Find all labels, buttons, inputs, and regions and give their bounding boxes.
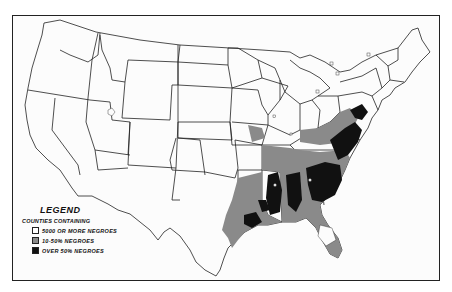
legend-title: LEGEND — [40, 205, 117, 215]
legend-item-label: 10-50% NEGROES — [42, 238, 94, 244]
legend-item-over-50-percent: OVER 50% NEGROES — [32, 247, 117, 254]
legend-item-10-50-percent: 10-50% NEGROES — [32, 237, 117, 244]
legend-subtitle: COUNTIES CONTAINING — [22, 218, 117, 224]
legend: LEGEND COUNTIES CONTAINING 5000 OR MORE … — [22, 205, 117, 254]
gray-swatch-icon — [32, 237, 39, 244]
black-swatch-icon — [32, 247, 39, 254]
white-swatch-icon — [32, 227, 39, 234]
legend-item-label: OVER 50% NEGROES — [42, 248, 104, 254]
legend-item-label: 5000 OR MORE NEGROES — [42, 228, 117, 234]
legend-item-5000-or-more: 5000 OR MORE NEGROES — [32, 227, 117, 234]
